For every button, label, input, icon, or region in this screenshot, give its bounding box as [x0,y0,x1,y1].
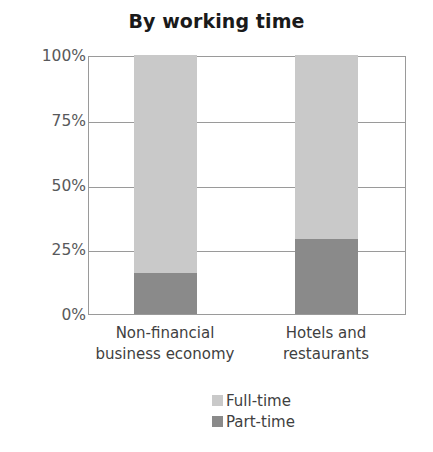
x-axis-label-line: business economy [75,344,255,365]
legend-swatch-icon [212,395,223,406]
x-axis-label-hotels-and-restaurants: Hotels and restaurants [236,323,416,365]
y-tick-label-25: 25% [8,241,86,259]
legend-item-part-time[interactable]: Part-time [0,411,433,432]
x-axis-label-line: Hotels and [236,323,416,344]
y-tick-label-100: 100% [8,47,86,65]
bar-segment-full-time[interactable] [134,55,197,273]
legend-label: Part-time [226,413,295,431]
bar-group-non-financial-business-economy[interactable] [134,57,197,314]
bar-group-hotels-and-restaurants[interactable] [295,57,358,314]
bar-segment-part-time[interactable] [295,239,358,314]
y-tick-label-50: 50% [8,177,86,195]
y-tick-label-0: 0% [8,306,86,324]
y-axis: 100% 75% 50% 25% 0% [0,0,86,452]
bar-segment-full-time[interactable] [295,55,358,239]
chart-legend: Full-time Part-time [0,390,433,432]
x-axis-label-non-financial-business-economy: Non-financial business economy [75,323,255,365]
chart-container: By working time 100% 75% 50% 25% 0% Non-… [0,0,433,452]
legend-label: Full-time [226,392,291,410]
y-tick-label-75: 75% [8,112,86,130]
x-axis-label-line: restaurants [236,344,416,365]
x-axis-label-line: Non-financial [75,323,255,344]
plot-area [88,56,406,315]
legend-item-full-time[interactable]: Full-time [0,390,433,411]
legend-swatch-icon [212,416,223,427]
bar-segment-part-time[interactable] [134,273,197,314]
